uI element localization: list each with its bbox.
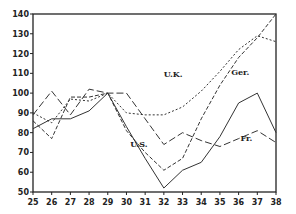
series-label: U.K. [164, 69, 183, 79]
x-tick-label: 37 [252, 198, 263, 207]
x-tick-label: 28 [84, 198, 96, 207]
y-tick-label: 80 [18, 129, 30, 138]
series-label: Fr. [240, 133, 252, 143]
x-tick-label: 35 [214, 198, 226, 207]
series-label: U.S. [130, 139, 148, 149]
y-tick-label: 50 [18, 188, 30, 197]
x-tick-label: 25 [27, 198, 39, 207]
y-tick-label: 110 [12, 69, 29, 78]
y-tick-label: 140 [12, 10, 29, 19]
series-label: Ger. [231, 67, 249, 77]
x-tick-label: 32 [158, 198, 169, 207]
x-tick-label: 34 [196, 198, 208, 207]
y-tick-label: 130 [12, 30, 29, 39]
series-line-ger [33, 14, 276, 170]
x-tick-label: 30 [121, 198, 133, 207]
series-line-uk [33, 36, 276, 123]
x-tick-label: 31 [140, 198, 152, 207]
x-tick-label: 27 [65, 198, 76, 207]
x-tick-label: 29 [102, 198, 114, 207]
y-tick-label: 60 [18, 168, 30, 177]
line-chart: 5060708090100110120130140252627282930313… [0, 0, 296, 214]
y-tick-label: 120 [12, 50, 29, 59]
x-tick-label: 36 [233, 198, 245, 207]
y-tick-label: 90 [18, 109, 30, 118]
x-tick-label: 26 [46, 198, 58, 207]
y-tick-label: 70 [18, 148, 30, 157]
x-tick-label: 38 [270, 198, 282, 207]
x-tick-label: 33 [177, 198, 188, 207]
y-tick-label: 100 [12, 89, 29, 98]
